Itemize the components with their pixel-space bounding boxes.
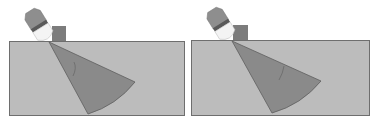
- wedge-shape: [52, 26, 66, 41]
- diagram-canvas: [0, 0, 373, 126]
- transducer-probe-icon: [22, 6, 55, 44]
- ultrasonic-probe-diagram: [0, 0, 373, 126]
- wedge-shape: [233, 25, 248, 40]
- panel-left: [10, 6, 185, 115]
- transducer-probe-icon: [204, 5, 237, 43]
- panel-right: [192, 5, 370, 115]
